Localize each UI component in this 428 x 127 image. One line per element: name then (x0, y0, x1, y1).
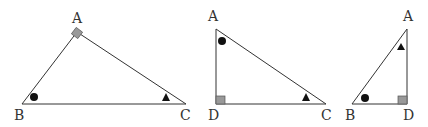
angle-mark-triangle-c (162, 93, 170, 101)
vertex-label-d: D (208, 107, 219, 123)
angle-mark-triangle-a (397, 43, 405, 50)
vertex-label-b: B (345, 107, 355, 123)
right-angle-marker-d (216, 96, 225, 104)
triangle-adc: A D C (207, 8, 332, 123)
right-angle-marker-d (398, 96, 407, 104)
vertex-label-b: B (14, 107, 24, 123)
angle-mark-triangle-c (302, 93, 310, 101)
vertex-label-c: C (180, 107, 191, 123)
angle-mark-circle-b (361, 94, 369, 102)
vertex-label-d: D (403, 107, 414, 123)
vertex-label-a: A (71, 10, 83, 26)
vertex-label-a: A (402, 8, 414, 24)
vertex-label-c: C (321, 107, 332, 123)
angle-mark-circle-b (30, 93, 38, 101)
vertex-label-a: A (207, 8, 219, 24)
angle-mark-circle-a (218, 37, 226, 45)
similar-triangles-diagram: A B C A D C A B D (0, 0, 428, 127)
triangle-adb: A B D (345, 8, 414, 123)
triangle-abc: A B C (14, 10, 191, 123)
